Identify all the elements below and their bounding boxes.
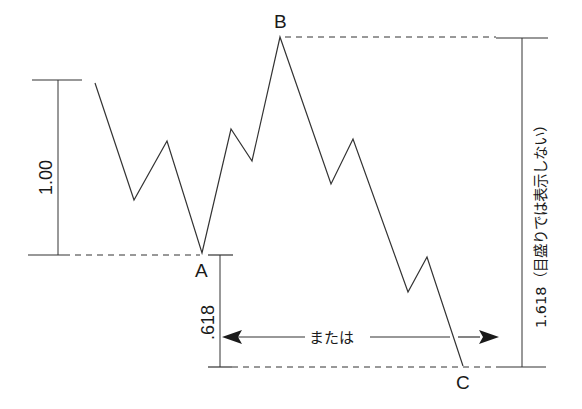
range-arrow bbox=[222, 330, 499, 344]
retracement-label: .618 bbox=[198, 305, 218, 340]
extension-label: 1.618（目盛りでは表示しない） bbox=[533, 118, 549, 328]
point-b-label: B bbox=[274, 11, 287, 32]
arrow-right-head-icon bbox=[479, 330, 499, 344]
point-c-label: C bbox=[456, 372, 470, 393]
point-a-label: A bbox=[195, 260, 208, 281]
price-path-line bbox=[95, 37, 463, 366]
arrow-label: または bbox=[309, 329, 354, 347]
fibonacci-diagram: B A C 1.00 .618 1.618（目盛りでは表示しない） または bbox=[0, 0, 582, 409]
b-level-guide bbox=[285, 37, 548, 38]
left-range-label: 1.00 bbox=[36, 160, 56, 195]
